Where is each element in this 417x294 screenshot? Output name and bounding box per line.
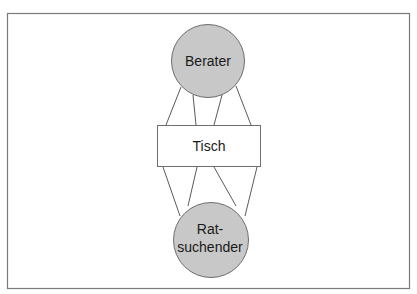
node-ratsuchender: Rat- suchender [174, 203, 249, 278]
ratsuchender-label-line2: suchender [177, 239, 243, 255]
node-tisch: Tisch [158, 126, 261, 167]
node-berater: Berater [172, 25, 245, 98]
diagram-canvas: Berater Tisch Rat- suchender [0, 0, 417, 294]
tisch-label: Tisch [193, 138, 226, 154]
berater-label: Berater [185, 53, 231, 69]
ratsuchender-label-line1: Rat- [197, 221, 224, 237]
